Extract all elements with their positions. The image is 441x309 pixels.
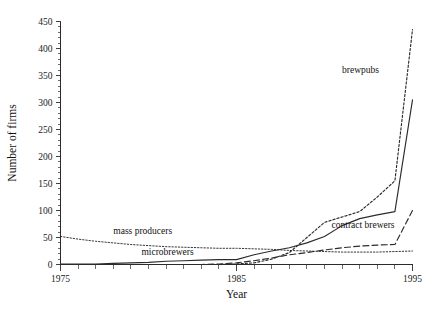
- annotation-contract-brewers: contract brewers: [332, 220, 395, 230]
- series-line-mass-producers: [61, 236, 413, 252]
- y-tick-label: 50: [43, 233, 53, 243]
- x-tick-label: 1985: [227, 274, 246, 284]
- x-tick-label: 1975: [51, 274, 70, 284]
- y-tick-label: 300: [38, 98, 53, 108]
- series-line-microbrewers: [61, 100, 413, 264]
- y-axis-ticks: 050100150200250300350400450: [38, 17, 60, 270]
- y-tick-label: 250: [38, 125, 53, 135]
- y-tick-label: 150: [38, 179, 53, 189]
- line-chart: 050100150200250300350400450 197519851995…: [0, 0, 441, 309]
- annotation-microbrewers: microbrewers: [141, 247, 194, 257]
- y-axis-title: Number of firms: [6, 104, 18, 182]
- y-tick-label: 350: [38, 71, 53, 81]
- y-tick-label: 200: [38, 152, 53, 162]
- x-axis-ticks: 197519851995: [51, 265, 422, 284]
- y-tick-label: 450: [38, 17, 53, 27]
- x-axis-title: Year: [226, 288, 247, 300]
- y-tick-label: 400: [38, 44, 53, 54]
- y-tick-label: 0: [48, 260, 53, 270]
- series-annotations: brewpubsmicrobrewerscontract brewersmass…: [113, 65, 395, 258]
- annotation-brewpubs: brewpubs: [342, 65, 379, 75]
- y-tick-label: 100: [38, 206, 53, 216]
- annotation-mass-producers: mass producers: [113, 226, 172, 236]
- x-tick-label: 1995: [403, 274, 422, 284]
- chart-figure: 050100150200250300350400450 197519851995…: [0, 0, 441, 309]
